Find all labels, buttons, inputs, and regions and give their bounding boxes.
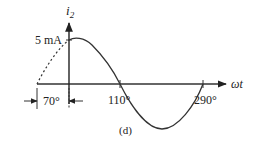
- zero-crossing-110-label: 110°: [108, 93, 131, 107]
- phase-offset-label: 70°: [43, 94, 60, 108]
- y-axis-label: i2: [66, 3, 75, 20]
- x-axis-label: ωt: [231, 77, 243, 91]
- zero-crossing-290-label: 290°: [194, 93, 217, 107]
- amplitude-label: 5 mA: [35, 33, 62, 47]
- sine-wave-diagram: i2 5 mA ωt 70° 110° 290° (d): [0, 0, 257, 152]
- caption: (d): [119, 124, 132, 137]
